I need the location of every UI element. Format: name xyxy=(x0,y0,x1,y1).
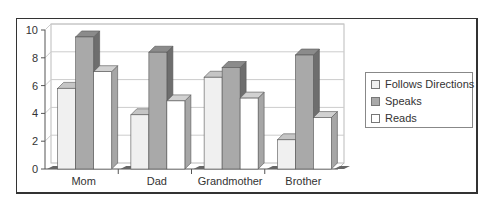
legend-label: Reads xyxy=(385,112,417,124)
x-category-label: Mom xyxy=(71,175,95,187)
x-category-label: Brother xyxy=(285,175,321,187)
legend-label: Speaks xyxy=(385,95,422,107)
x-category-label: Grandmother xyxy=(198,175,263,187)
legend-item-speaks: Speaks xyxy=(371,94,422,108)
legend-item-follows-directions: Follows Directions xyxy=(371,77,474,91)
bar-reads-dad xyxy=(167,95,191,169)
x-category-label: Dad xyxy=(147,175,167,187)
legend-swatch-speaks xyxy=(371,97,380,106)
y-tick-label: 4 xyxy=(32,107,38,119)
legend-swatch-follows-directions xyxy=(371,80,380,89)
legend: Follows Directions Speaks Reads xyxy=(365,72,473,128)
y-tick-label: 10 xyxy=(26,24,38,36)
y-tick-label: 0 xyxy=(32,163,38,175)
legend-swatch-reads xyxy=(371,114,380,123)
legend-item-reads: Reads xyxy=(371,111,417,125)
legend-label: Follows Directions xyxy=(385,78,474,90)
y-tick-label: 8 xyxy=(32,52,38,64)
y-tick-label: 2 xyxy=(32,135,38,147)
x-axis-labels: MomDadGrandmotherBrother xyxy=(71,175,321,187)
bar-reads-mom xyxy=(94,66,118,169)
bar-reads-grandmother xyxy=(240,92,264,169)
bar-reads-brother xyxy=(313,112,337,169)
y-tick-label: 6 xyxy=(32,80,38,92)
